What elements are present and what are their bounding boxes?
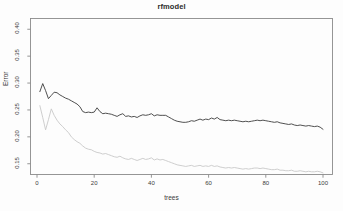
rf-error-plot: rfmodel trees Error 0.400.350.300.250.20… <box>0 0 343 211</box>
y-tick-label: 0.15 <box>14 154 20 172</box>
x-tick-label: 40 <box>141 180 161 186</box>
series-line-OOB <box>40 84 323 130</box>
x-tick-label: 0 <box>27 180 47 186</box>
y-tick-label: 0.20 <box>14 127 20 145</box>
y-tick-label: 0.35 <box>14 46 20 64</box>
y-tick-label: 0.30 <box>14 73 20 91</box>
x-tick-label: 80 <box>256 180 276 186</box>
series-line-class-error <box>40 106 323 173</box>
x-tick-label: 20 <box>84 180 104 186</box>
y-tick-label: 0.25 <box>14 100 20 118</box>
chart-canvas <box>0 0 343 211</box>
x-tick-label: 100 <box>313 180 333 186</box>
x-tick-label: 60 <box>199 180 219 186</box>
plot-frame <box>31 19 333 175</box>
y-tick-label: 0.40 <box>14 19 20 37</box>
